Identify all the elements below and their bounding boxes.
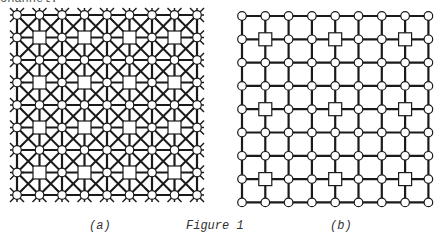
circle-node-icon: [103, 146, 112, 155]
circle-node-icon: [103, 123, 112, 132]
circle-node-icon: [424, 12, 433, 21]
circle-node-icon: [401, 152, 410, 161]
circle-node-icon: [424, 152, 433, 161]
square-node-icon: [78, 166, 91, 179]
circle-node-icon: [13, 33, 22, 42]
circle-node-icon: [103, 33, 112, 42]
circle-node-icon: [284, 105, 293, 114]
circle-node-icon: [148, 168, 157, 177]
circle-node-icon: [331, 12, 340, 21]
circle-node-icon: [148, 191, 157, 200]
circle-node-icon: [80, 101, 89, 110]
circle-node-icon: [308, 35, 317, 44]
circle-node-icon: [13, 123, 22, 132]
figure-caption: Figure 1: [186, 219, 244, 233]
circle-node-icon: [148, 11, 157, 20]
circle-node-icon: [284, 35, 293, 44]
circle-node-icon: [284, 198, 293, 207]
circle-node-icon: [308, 58, 317, 67]
circle-node-icon: [378, 198, 387, 207]
circle-node-icon: [170, 101, 179, 110]
panel-b-label: (b): [330, 219, 352, 233]
circle-node-icon: [378, 128, 387, 137]
circle-node-icon: [261, 82, 270, 91]
circle-node-icon: [238, 82, 247, 91]
circle-node-icon: [308, 198, 317, 207]
circle-node-icon: [284, 152, 293, 161]
circle-node-icon: [354, 105, 363, 114]
circle-node-icon: [261, 198, 270, 207]
circle-node-icon: [331, 198, 340, 207]
circle-node-icon: [193, 191, 202, 200]
circle-node-icon: [193, 123, 202, 132]
circle-node-icon: [308, 128, 317, 137]
circle-node-icon: [308, 105, 317, 114]
square-node-icon: [168, 31, 181, 44]
circle-node-icon: [13, 146, 22, 155]
circle-node-icon: [35, 101, 44, 110]
square-node-icon: [329, 173, 342, 186]
circle-node-icon: [125, 56, 134, 65]
circle-node-icon: [103, 191, 112, 200]
circle-node-icon: [331, 152, 340, 161]
circle-node-icon: [148, 33, 157, 42]
circle-node-icon: [125, 191, 134, 200]
circle-node-icon: [193, 146, 202, 155]
circle-node-icon: [35, 56, 44, 65]
circle-node-icon: [58, 33, 67, 42]
circle-node-icon: [354, 152, 363, 161]
circle-node-icon: [148, 146, 157, 155]
square-node-icon: [33, 76, 46, 89]
circle-node-icon: [193, 11, 202, 20]
circle-node-icon: [125, 101, 134, 110]
circle-node-icon: [354, 198, 363, 207]
square-node-icon: [78, 76, 91, 89]
circle-node-icon: [378, 12, 387, 21]
circle-node-icon: [35, 191, 44, 200]
circle-node-icon: [378, 105, 387, 114]
square-node-icon: [399, 173, 412, 186]
panel-a-grid: [10, 8, 204, 202]
square-node-icon: [399, 33, 412, 46]
circle-node-icon: [193, 78, 202, 87]
circle-node-icon: [35, 11, 44, 20]
circle-node-icon: [424, 58, 433, 67]
circle-node-icon: [103, 168, 112, 177]
panel-a-label: (a): [89, 219, 111, 233]
circle-node-icon: [80, 56, 89, 65]
circle-node-icon: [148, 78, 157, 87]
square-node-icon: [168, 76, 181, 89]
circle-node-icon: [261, 152, 270, 161]
circle-node-icon: [58, 101, 67, 110]
circle-node-icon: [13, 56, 22, 65]
square-node-icon: [168, 166, 181, 179]
circle-node-icon: [148, 123, 157, 132]
square-node-icon: [78, 121, 91, 134]
circle-node-icon: [401, 58, 410, 67]
circle-node-icon: [331, 128, 340, 137]
circle-node-icon: [354, 35, 363, 44]
circle-node-icon: [193, 33, 202, 42]
circle-node-icon: [238, 58, 247, 67]
circle-node-icon: [13, 168, 22, 177]
circle-node-icon: [193, 101, 202, 110]
square-node-icon: [33, 166, 46, 179]
circle-node-icon: [35, 146, 44, 155]
circle-node-icon: [80, 11, 89, 20]
circle-node-icon: [238, 105, 247, 114]
square-node-icon: [123, 121, 136, 134]
circle-node-icon: [238, 198, 247, 207]
circle-node-icon: [125, 11, 134, 20]
circle-node-icon: [424, 198, 433, 207]
circle-node-icon: [378, 35, 387, 44]
circle-node-icon: [331, 58, 340, 67]
circle-node-icon: [401, 128, 410, 137]
circle-node-icon: [308, 152, 317, 161]
circle-node-icon: [354, 128, 363, 137]
square-node-icon: [33, 31, 46, 44]
circle-node-icon: [354, 12, 363, 21]
square-node-icon: [123, 76, 136, 89]
circle-node-icon: [354, 175, 363, 184]
circle-node-icon: [80, 146, 89, 155]
square-node-icon: [399, 103, 412, 116]
